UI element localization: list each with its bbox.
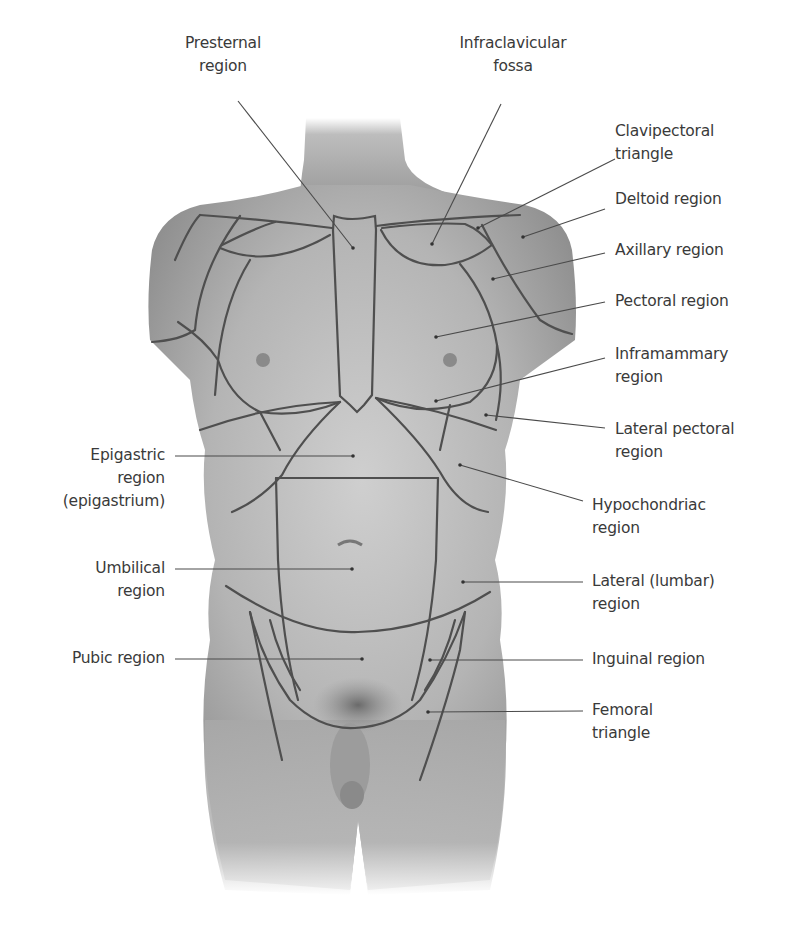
label-inguinal-region: Inguinal region [592, 648, 705, 671]
label-axillary-region: Axillary region [615, 239, 724, 262]
label-pectoral-region: Pectoral region [615, 290, 729, 313]
label-infraclavicular-fossa: Infraclavicular fossa [459, 32, 566, 78]
label-clavipectoral-triangle: Clavipectoral triangle [615, 120, 714, 166]
label-inframammary-region: Inframammary region [615, 343, 728, 389]
label-pubic-region: Pubic region [0, 647, 165, 670]
anatomy-figure: Presternal region Infraclavicular fossa … [0, 0, 786, 929]
label-lateral-pectoral-region: Lateral pectoral region [615, 418, 734, 464]
label-epigastric-region: Epigastric region (epigastrium) [0, 444, 165, 513]
label-femoral-triangle: Femoral triangle [592, 699, 653, 745]
nipple-left [256, 353, 270, 367]
nipple-right [443, 353, 457, 367]
label-presternal-region: Presternal region [185, 32, 261, 78]
label-deltoid-region: Deltoid region [615, 188, 722, 211]
label-umbilical-region: Umbilical region [0, 557, 165, 603]
label-lateral-lumbar-region: Lateral (lumbar) region [592, 570, 715, 616]
label-hypochondriac-region: Hypochondriac region [592, 494, 706, 540]
